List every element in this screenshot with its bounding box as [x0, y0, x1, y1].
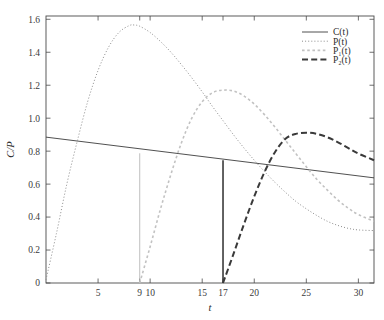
- x-tick-label: 20: [250, 288, 260, 298]
- x-tick-label: 10: [145, 288, 155, 298]
- x-tick-label: 17: [218, 288, 228, 298]
- y-tick-label: 0: [35, 278, 40, 288]
- y-tick-label: 1.6: [28, 15, 40, 25]
- y-axis-title: C/P: [5, 141, 16, 158]
- legend-label: P₂(t): [333, 55, 351, 66]
- axis-tick-labels: 00.20.40.60.81.01.21.41.659101517202530: [28, 15, 363, 298]
- y-tick-label: 0.6: [28, 180, 40, 190]
- series-curve-P2t: [223, 133, 374, 283]
- axis-ticks-x: [98, 16, 358, 283]
- x-tick-label: 9: [137, 288, 142, 298]
- y-tick-label: 1.2: [28, 81, 40, 91]
- x-tick-label: 5: [96, 288, 101, 298]
- chart-plot-area: 00.20.40.60.81.01.21.41.659101517202530 …: [0, 0, 384, 320]
- y-tick-label: 0.4: [28, 212, 40, 222]
- plot-frame: [46, 16, 374, 283]
- data-series-group: [46, 25, 374, 283]
- chart-figure: 00.20.40.60.81.01.21.41.659101517202530 …: [0, 0, 384, 320]
- x-tick-label: 30: [354, 288, 364, 298]
- y-tick-label: 0.8: [28, 147, 40, 157]
- x-axis-title: t: [209, 302, 213, 313]
- y-tick-label: 0.2: [28, 245, 40, 255]
- series-curve-P1t: [140, 90, 374, 283]
- annotation-droplines: [140, 153, 223, 283]
- y-tick-label: 1.4: [28, 48, 40, 58]
- x-tick-label: 25: [302, 288, 312, 298]
- x-tick-label: 15: [197, 288, 207, 298]
- series-curve-Ct: [46, 137, 374, 178]
- y-tick-label: 1.0: [28, 114, 40, 124]
- series-curve-Pt: [46, 25, 374, 280]
- chart-legend: C(t)P(t)P₁(t)P₂(t): [302, 27, 351, 66]
